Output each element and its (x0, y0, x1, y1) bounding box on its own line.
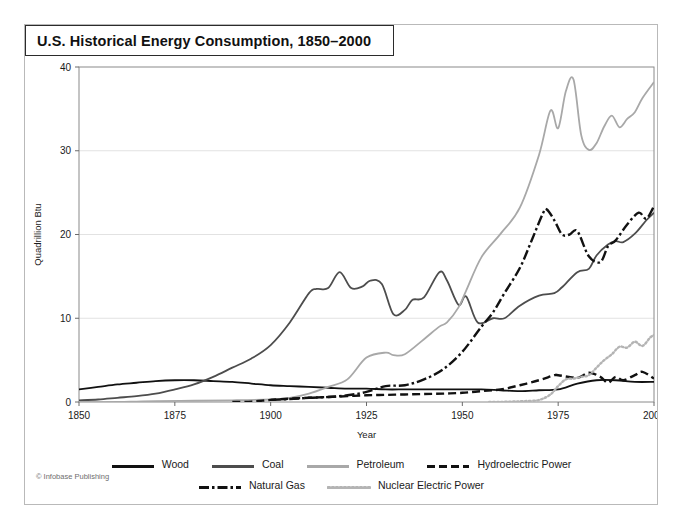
plot-area: 0102030401850187519001925195019752000Yea… (25, 56, 657, 458)
legend-item-hydro[interactable]: Hydroelectric Power (426, 458, 571, 470)
tick-label-y: 20 (60, 229, 72, 240)
legend-line-icon-wood (111, 458, 155, 469)
tick-label-y: 10 (60, 313, 72, 324)
line-chart: 0102030401850187519001925195019752000Yea… (25, 56, 657, 458)
legend-line-icon-gas (198, 479, 242, 490)
legend-swatch-icon (198, 482, 242, 493)
legend-line-icon-nuclear (327, 479, 371, 490)
legend-swatch-icon (211, 461, 255, 472)
legend-line-icon-petroleum (306, 458, 350, 469)
tick-label-y: 30 (60, 145, 72, 156)
tick-label-x: 1850 (68, 410, 91, 421)
legend-swatch-icon (426, 461, 470, 472)
legend-swatch-icon (306, 461, 350, 472)
series-line-petroleum (79, 77, 654, 402)
legend-item-nuclear[interactable]: Nuclear Electric Power (327, 479, 484, 491)
legend-row-1: WoodCoalPetroleumHydroelectric Power (25, 453, 657, 474)
tick-label-x: 1925 (355, 410, 378, 421)
series-line-nuclear-electric-power (489, 335, 654, 402)
series-line-wood (79, 380, 654, 391)
tick-label-y: 40 (60, 62, 72, 73)
legend-swatch-icon (111, 461, 155, 472)
legend-line-icon-coal (211, 458, 255, 469)
legend-item-coal[interactable]: Coal (211, 458, 284, 470)
legend-item-gas[interactable]: Natural Gas (198, 479, 305, 491)
chart-title-box: U.S. Historical Energy Consumption, 1850… (25, 25, 394, 56)
legend-label-wood: Wood (162, 458, 189, 470)
legend-item-wood[interactable]: Wood (111, 458, 189, 470)
chart-legend: WoodCoalPetroleumHydroelectric Power Nat… (25, 453, 657, 501)
legend-item-petroleum[interactable]: Petroleum (306, 458, 405, 470)
series-line-natural-gas (271, 206, 654, 400)
figure-container: U.S. Historical Energy Consumption, 1850… (24, 24, 658, 505)
page-title: U.S. Historical Energy Consumption, 1850… (37, 33, 371, 49)
tick-label-y: 0 (65, 397, 71, 408)
legend-line-icon-hydro (426, 458, 470, 469)
copyright-credit: © Infobase Publishing (36, 472, 109, 481)
x-axis-label: Year (357, 429, 376, 440)
legend-label-gas: Natural Gas (249, 479, 305, 491)
tick-label-x: 1975 (547, 410, 570, 421)
legend-label-hydro: Hydroelectric Power (477, 458, 571, 470)
series-line-coal (79, 213, 654, 401)
legend-label-nuclear: Nuclear Electric Power (378, 479, 484, 491)
legend-label-coal: Coal (262, 458, 284, 470)
y-axis-label: Quadrillion Btu (32, 203, 43, 265)
tick-label-x: 1875 (164, 410, 187, 421)
tick-label-x: 2000 (643, 410, 657, 421)
legend-row-2: Natural GasNuclear Electric Power (25, 474, 657, 495)
tick-label-x: 1900 (260, 410, 283, 421)
legend-swatch-icon (327, 482, 371, 493)
legend-label-petroleum: Petroleum (357, 458, 405, 470)
tick-label-x: 1950 (451, 410, 474, 421)
